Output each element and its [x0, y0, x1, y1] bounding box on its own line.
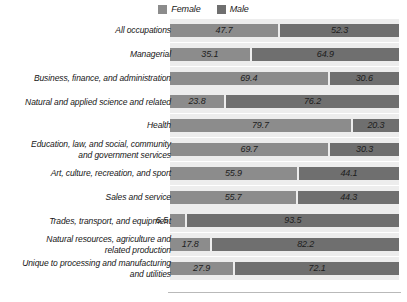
- bar-segment-female[interactable]: 6.5: [170, 214, 185, 227]
- bar-segment-female[interactable]: 23.8: [170, 95, 224, 108]
- bar-segment-female[interactable]: 69.7: [170, 143, 328, 156]
- bar-segment-female[interactable]: 55.9: [170, 167, 297, 180]
- category-label: Art, culture, recreation, and sport: [1, 168, 171, 179]
- stacked-bar-row[interactable]: 23.876.2: [170, 95, 399, 108]
- bar-value-male: 52.3: [331, 26, 348, 35]
- bar-segment-female[interactable]: 17.8: [170, 238, 210, 251]
- bar-value-male: 30.3: [356, 145, 373, 154]
- bar-value-male: 64.9: [317, 50, 334, 59]
- category-label: All occupations: [1, 25, 171, 36]
- plot-area: 47.752.335.164.969.430.623.876.279.720.3…: [170, 19, 399, 283]
- bar-value-male: 30.6: [356, 74, 373, 83]
- category-label: Natural and applied science and related: [1, 97, 171, 108]
- stacked-bar-row[interactable]: 55.944.1: [170, 167, 399, 180]
- bar-segment-male[interactable]: 82.2: [212, 238, 399, 251]
- bar-segment-female[interactable]: 79.7: [170, 119, 351, 132]
- bar-segment-female[interactable]: 69.4: [170, 72, 328, 85]
- bar-segment-female[interactable]: 55.7: [170, 191, 296, 204]
- bar-segment-male[interactable]: 93.5: [187, 214, 399, 227]
- bar-value-female: 17.8: [182, 240, 199, 249]
- bar-value-female: 23.8: [188, 97, 205, 106]
- category-label: Business, finance, and administration: [1, 73, 171, 84]
- bar-segment-female[interactable]: 27.9: [170, 262, 233, 275]
- bar-segment-male[interactable]: 30.3: [330, 143, 399, 156]
- bar-segment-female[interactable]: 35.1: [170, 48, 250, 61]
- bar-value-female: 35.1: [201, 50, 218, 59]
- bar-segment-male[interactable]: 72.1: [235, 262, 399, 275]
- bar-segment-male[interactable]: 64.9: [252, 48, 399, 61]
- bar-value-female: 55.7: [225, 193, 242, 202]
- stacked-bar-row[interactable]: 69.730.3: [170, 143, 399, 156]
- bar-segment-male[interactable]: 44.1: [299, 167, 399, 180]
- bar-value-female: 55.9: [225, 169, 242, 178]
- bar-value-male: 20.3: [367, 121, 384, 130]
- stacked-bar-row[interactable]: 47.752.3: [170, 24, 399, 37]
- bar-segment-male[interactable]: 76.2: [226, 95, 399, 108]
- bar-value-female: 69.7: [241, 145, 258, 154]
- bar-value-female: 27.9: [193, 264, 210, 273]
- stacked-bar-row[interactable]: 69.430.6: [170, 72, 399, 85]
- bar-segment-male[interactable]: 52.3: [280, 24, 399, 37]
- bar-value-male: 44.3: [340, 193, 357, 202]
- category-label: Managerial: [1, 49, 171, 60]
- bar-segment-male[interactable]: 20.3: [353, 119, 399, 132]
- legend-label-male: Male: [230, 5, 249, 14]
- bar-value-female: 69.4: [240, 74, 257, 83]
- chart-legend: Female Male: [0, 2, 407, 16]
- bar-value-male: 44.1: [340, 169, 357, 178]
- bar-value-male: 93.5: [284, 216, 301, 225]
- bar-value-male: 82.2: [297, 240, 314, 249]
- stacked-bar-row[interactable]: 27.972.1: [170, 262, 399, 275]
- legend-swatch-female-icon: [158, 5, 167, 14]
- bar-value-male: 76.2: [304, 97, 321, 106]
- category-label: Natural resources, agriculture andrelate…: [1, 234, 171, 255]
- legend-swatch-male-icon: [217, 5, 226, 14]
- category-label: Sales and service: [1, 192, 171, 203]
- category-label: Trades, transport, and equipment: [1, 216, 171, 227]
- category-label: Education, law, and social, communityand…: [1, 139, 171, 160]
- axis-baseline: [168, 292, 401, 293]
- category-label: Unique to processing and manufacturingan…: [1, 258, 171, 279]
- bar-value-female: 47.7: [216, 26, 233, 35]
- category-label: Health: [1, 120, 171, 131]
- bar-segment-male[interactable]: 30.6: [330, 72, 399, 85]
- stacked-bar-chart: Female Male 47.752.335.164.969.430.623.8…: [0, 0, 407, 302]
- legend-item-male[interactable]: Male: [217, 5, 249, 14]
- legend-label-female: Female: [171, 5, 200, 14]
- stacked-bar-row[interactable]: 55.744.3: [170, 191, 399, 204]
- legend-item-female[interactable]: Female: [158, 5, 200, 14]
- bar-segment-male[interactable]: 44.3: [298, 191, 399, 204]
- bar-segment-female[interactable]: 47.7: [170, 24, 278, 37]
- stacked-bar-row[interactable]: 17.882.2: [170, 238, 399, 251]
- stacked-bar-row[interactable]: 6.593.5: [170, 214, 399, 227]
- bar-value-female: 79.7: [252, 121, 269, 130]
- stacked-bar-row[interactable]: 79.720.3: [170, 119, 399, 132]
- stacked-bar-row[interactable]: 35.164.9: [170, 48, 399, 61]
- bar-value-male: 72.1: [309, 264, 326, 273]
